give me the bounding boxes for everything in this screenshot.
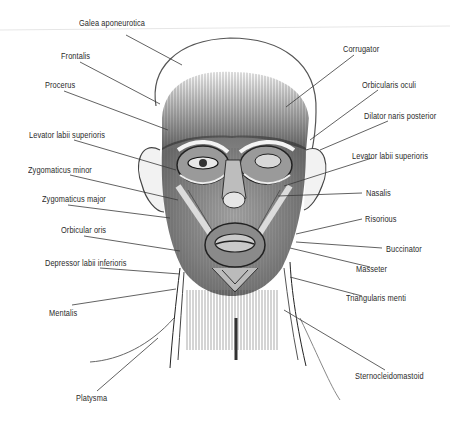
label-galea-aponeurotica: Galea aponeurotica bbox=[79, 18, 145, 28]
label-frontalis: Frontalis bbox=[61, 51, 90, 61]
label-triangularis-menti: Triangularis menti bbox=[346, 293, 406, 303]
label-nasalis: Nasalis bbox=[366, 188, 391, 198]
label-levator-labii-superioris-left: Levator labii superioris bbox=[29, 130, 105, 140]
label-levator-labii-superioris-right: Levator labii superioris bbox=[352, 151, 428, 161]
label-procerus: Procerus bbox=[45, 80, 75, 90]
label-mentalis: Mentalis bbox=[49, 308, 77, 318]
label-platysma: Platysma bbox=[76, 393, 107, 403]
label-orbicular-oris: Orbicular oris bbox=[61, 225, 106, 235]
right-ear bbox=[304, 149, 326, 210]
label-masseter: Masseter bbox=[356, 264, 387, 274]
label-corrugator: Corrugator bbox=[343, 44, 379, 54]
label-orbicularis-oculi: Orbicularis oculi bbox=[362, 80, 416, 90]
label-buccinator: Buccinator bbox=[386, 244, 422, 254]
label-zygomaticus-major: Zygomaticus major bbox=[42, 194, 106, 204]
label-dilator-naris-posterior: Dilator naris posterior bbox=[364, 111, 436, 121]
label-zygomaticus-minor: Zygomaticus minor bbox=[28, 165, 92, 175]
left-ear bbox=[139, 148, 164, 212]
anatomy-figure: Galea aponeurotica Frontalis Procerus Le… bbox=[0, 0, 450, 428]
label-depressor-labii-inferioris: Depressor labii inferioris bbox=[45, 258, 127, 268]
label-risorious: Risorious bbox=[365, 214, 397, 224]
label-sternocleidomastoid: Sternocleidomastoid bbox=[355, 371, 424, 381]
